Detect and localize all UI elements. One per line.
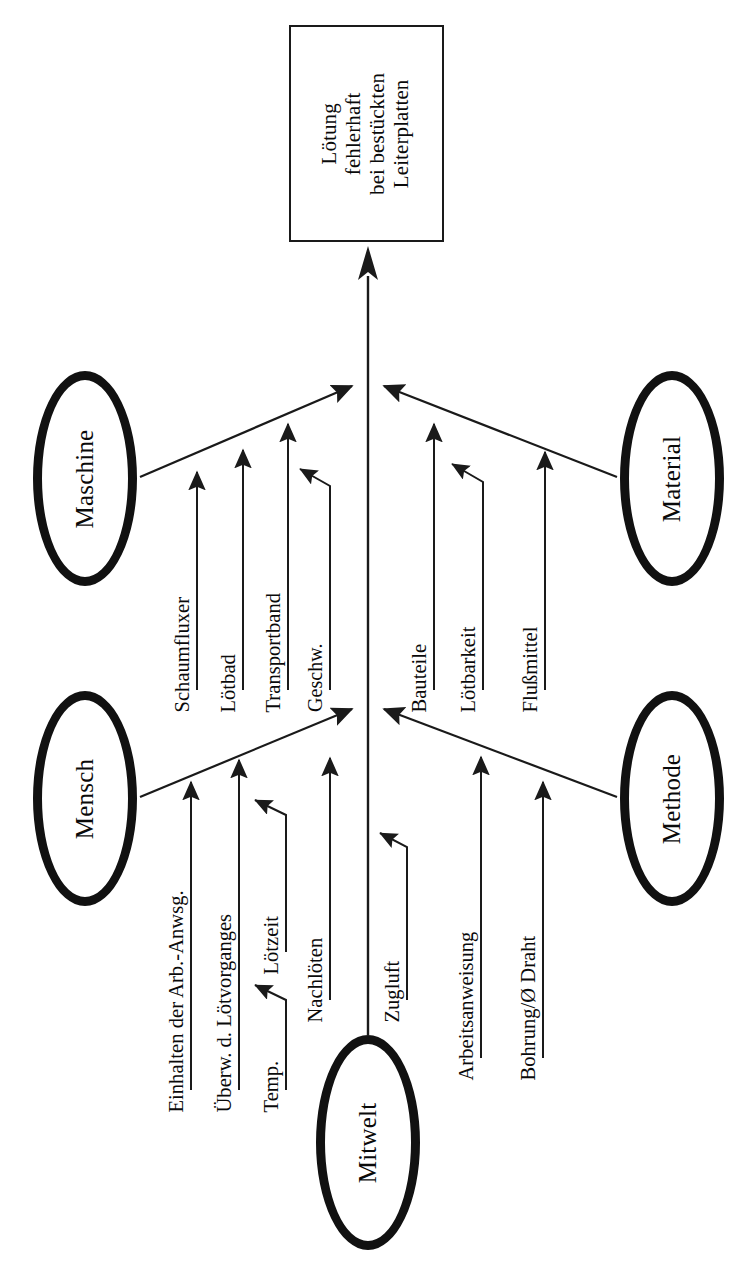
effect-box: Lötung fehlerhaft bei bestückten Leiterp… xyxy=(289,25,444,242)
category-mensch[interactable]: Mensch xyxy=(33,691,137,906)
cause-label-flussmittel: Flußmittel xyxy=(520,627,541,713)
cause-label-transportband: Transportband xyxy=(263,593,284,712)
category-maschine[interactable]: Maschine xyxy=(33,371,137,586)
cause-label-einhalten: Einhalten der Arb.-Anwsg. xyxy=(166,890,187,1112)
category-methode[interactable]: Methode xyxy=(620,691,724,906)
cause-label-temp: Temp. xyxy=(261,1061,282,1113)
category-material[interactable]: Material xyxy=(620,371,724,586)
cause-label-arbeitsanweisung: Arbeitsanweisung xyxy=(456,932,477,1081)
effect-label: Lötung fehlerhaft bei bestückten Leiterp… xyxy=(319,72,415,194)
cause-label-zugluft: Zugluft xyxy=(382,961,403,1023)
category-material-label: Material xyxy=(658,435,686,521)
branch-methode xyxy=(384,709,617,1058)
fishbone-diagram-canvas: Lötung fehlerhaft bei bestückten Leiterp… xyxy=(0,0,740,1286)
category-mitwelt-label: Mitwelt xyxy=(354,1102,382,1183)
category-methode-label: Methode xyxy=(658,753,686,843)
cause-label-loetzeit: Lötzeit xyxy=(261,916,282,974)
cause-label-ueberw: Überw. d. Lötvorganges xyxy=(214,914,235,1113)
cause-label-schaumfluxer: Schaumfluxer xyxy=(172,597,193,713)
category-mensch-label: Mensch xyxy=(71,758,99,838)
spine-line xyxy=(358,246,378,1035)
category-maschine-label: Maschine xyxy=(71,429,99,528)
cause-label-bohrung: Bohrung/Ø Draht xyxy=(518,936,539,1081)
category-mitwelt[interactable]: Mitwelt xyxy=(316,1035,420,1250)
cause-label-loetbarkeit: Lötbarkeit xyxy=(458,627,479,713)
cause-label-bauteile: Bauteile xyxy=(409,644,430,713)
cause-label-nachloeten: Nachlöten xyxy=(305,938,326,1023)
cause-label-loetbad: Lötbad xyxy=(218,654,239,712)
cause-label-geschw: Geschw. xyxy=(305,644,325,712)
